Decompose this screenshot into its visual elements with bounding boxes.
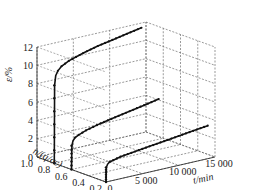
data-marker [132, 109, 134, 111]
data-marker [114, 116, 116, 118]
data-marker [126, 33, 128, 35]
data-marker [111, 39, 113, 41]
data-marker [96, 124, 98, 126]
data-marker [159, 141, 161, 143]
data-marker [145, 147, 147, 149]
z-tick-label: 4 [28, 115, 33, 126]
data-marker [134, 150, 136, 152]
data-marker [167, 139, 169, 141]
data-marker [57, 70, 59, 72]
data-marker [53, 110, 55, 112]
data-marker [86, 50, 88, 52]
data-marker [70, 156, 72, 158]
data-marker [139, 106, 141, 108]
data-marker [121, 113, 123, 115]
y-tick-label: 0.6 [55, 171, 68, 182]
data-marker [119, 36, 121, 38]
data-marker [116, 157, 118, 159]
z-tick-label: 2 [28, 133, 33, 144]
data-marker [89, 48, 91, 50]
data-marker [53, 84, 55, 86]
data-marker [71, 58, 73, 60]
data-marker [140, 27, 142, 29]
data-marker [152, 144, 154, 146]
data-marker [107, 119, 109, 121]
data-marker [174, 136, 176, 138]
data-marker [81, 132, 83, 134]
z-tick-label: 12 [23, 42, 33, 53]
data-marker [156, 143, 158, 145]
data-marker [105, 166, 107, 168]
data-marker [129, 31, 131, 33]
data-marker [192, 130, 194, 132]
data-marker [185, 132, 187, 134]
data-marker [70, 160, 72, 162]
data-marker [125, 112, 127, 114]
data-marker [115, 37, 117, 39]
data-marker [75, 56, 77, 58]
creep-curve [54, 28, 141, 164]
z-axis-label: ε/% [4, 67, 14, 82]
data-marker [105, 178, 107, 180]
data-marker [129, 110, 131, 112]
data-marker [105, 171, 107, 173]
data-marker [188, 131, 190, 133]
data-marker [207, 125, 209, 127]
x-tick-label: 15 000 [205, 158, 233, 169]
data-marker [64, 62, 66, 64]
data-marker [141, 148, 143, 150]
data-marker [105, 181, 107, 183]
data-marker [122, 34, 124, 36]
data-marker [130, 152, 132, 154]
data-marker [104, 42, 106, 44]
grid-line [37, 59, 146, 84]
data-marker [119, 156, 121, 158]
data-marker [163, 140, 165, 142]
data-marker [53, 149, 55, 151]
z-tick-label: 6 [28, 97, 33, 108]
data-marker [133, 30, 135, 32]
data-marker [53, 136, 55, 138]
data-marker [170, 137, 172, 139]
data-marker [196, 128, 198, 130]
z-tick-label: 8 [28, 78, 33, 89]
data-marker [110, 118, 112, 120]
data-marker [60, 65, 62, 67]
z-tick-label: 10 [23, 60, 33, 71]
data-marker [74, 136, 76, 138]
data-marker [158, 98, 160, 100]
data-marker [123, 154, 125, 156]
data-marker [78, 134, 80, 136]
data-marker [109, 161, 111, 163]
data-marker [85, 129, 87, 131]
data-marker [100, 43, 102, 45]
data-marker [103, 121, 105, 123]
data-marker [108, 40, 110, 42]
data-marker [89, 128, 91, 130]
data-marker [82, 52, 84, 54]
x-tick-label: 5 000 [135, 175, 158, 186]
data-marker [70, 168, 72, 170]
grid-line [37, 22, 146, 47]
grid-line [37, 40, 146, 65]
data-marker [79, 54, 81, 56]
data-marker [70, 148, 72, 150]
grid-line [37, 120, 106, 145]
grid-line [37, 84, 106, 109]
grid-line [37, 65, 106, 90]
data-marker [105, 173, 107, 175]
data-marker [203, 126, 205, 128]
data-marker [105, 176, 107, 178]
data-marker [70, 152, 72, 154]
data-marker [147, 103, 149, 105]
data-marker [138, 149, 140, 151]
data-marker [181, 134, 183, 136]
data-marker [127, 153, 129, 155]
x-tick-label: 0 [108, 183, 113, 190]
data-marker [99, 122, 101, 124]
y-tick-label: 0.8 [38, 164, 51, 175]
data-marker [70, 144, 72, 146]
3d-creep-chart: 0246810121.00.80.60.40.205 00010 00015 0… [0, 0, 272, 190]
y-tick-label: 1.0 [21, 158, 34, 169]
data-marker [105, 169, 107, 171]
